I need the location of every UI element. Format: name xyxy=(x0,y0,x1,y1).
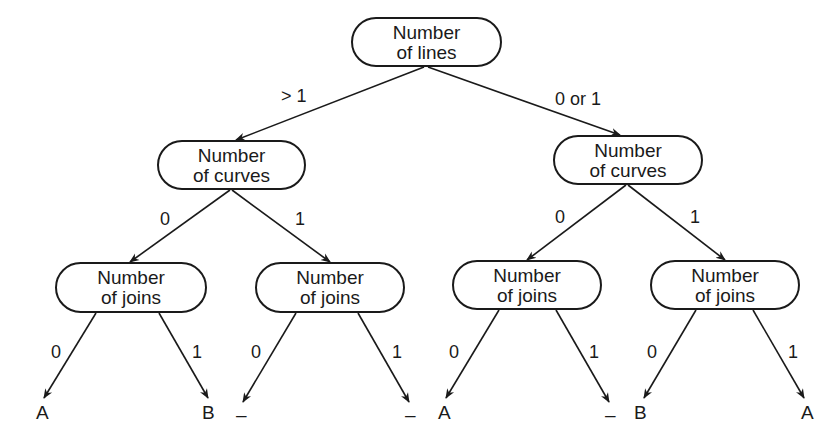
leaf-value: B xyxy=(634,403,647,422)
node-label-line1: Number xyxy=(57,268,205,288)
leaf-value: A xyxy=(438,403,451,422)
node-number-of-curves-right: Number of curves xyxy=(553,135,703,185)
node-label-line1: Number xyxy=(159,146,304,166)
node-number-of-joins-4: Number of joins xyxy=(650,260,800,310)
edge-label-0: 0 xyxy=(51,343,61,361)
edge-label-1: 1 xyxy=(690,208,700,226)
node-label-line2: of joins xyxy=(57,288,205,308)
node-label-line1: Number xyxy=(353,23,500,43)
node-number-of-lines: Number of lines xyxy=(351,17,502,67)
edge-label-0: 0 xyxy=(251,343,261,361)
edge-label-0or1: 0 or 1 xyxy=(555,90,601,108)
leaf-value: A xyxy=(36,403,49,422)
edge-label-0: 0 xyxy=(647,343,657,361)
leaf-value: – xyxy=(605,405,616,424)
node-number-of-joins-3: Number of joins xyxy=(452,260,602,310)
node-label-line2: of joins xyxy=(257,288,403,308)
leaf-value: – xyxy=(405,405,416,424)
edge-label-0: 0 xyxy=(160,210,170,228)
leaf-value: B xyxy=(202,403,215,422)
node-label-line1: Number xyxy=(555,141,701,161)
edge-label-1: 1 xyxy=(392,343,402,361)
leaf-value: A xyxy=(801,403,814,422)
node-number-of-joins-2: Number of joins xyxy=(255,262,405,313)
tree-edges xyxy=(0,0,839,448)
node-label-line2: of curves xyxy=(159,166,304,186)
node-label-line2: of joins xyxy=(652,286,798,306)
node-label-line2: of joins xyxy=(454,286,600,306)
node-number-of-joins-1: Number of joins xyxy=(55,262,207,313)
edge-label-0: 0 xyxy=(449,343,459,361)
edge-label-1: 1 xyxy=(295,210,305,228)
edge-label-1: 1 xyxy=(192,343,202,361)
node-label-line2: of curves xyxy=(555,161,701,181)
edge-label-1: 1 xyxy=(788,343,798,361)
leaf-value: – xyxy=(236,405,247,424)
node-number-of-curves-left: Number of curves xyxy=(157,140,306,190)
node-label-line2: of lines xyxy=(353,43,500,63)
node-label-line1: Number xyxy=(652,266,798,286)
node-label-line1: Number xyxy=(454,266,600,286)
node-label-line1: Number xyxy=(257,268,403,288)
edge-label-1: 1 xyxy=(589,343,599,361)
edge-label-gt1: > 1 xyxy=(281,87,307,105)
edge-label-0: 0 xyxy=(555,208,565,226)
